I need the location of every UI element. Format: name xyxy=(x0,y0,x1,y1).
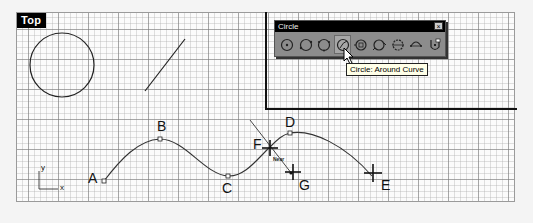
circle-tangent3-button[interactable] xyxy=(371,35,387,54)
circle-fit-icon xyxy=(391,38,405,52)
circle-deformable-button[interactable] xyxy=(408,35,424,54)
axis-y-label: y xyxy=(41,163,45,172)
point-label-a: A xyxy=(88,170,97,186)
point-label-e: E xyxy=(381,177,390,193)
point-label-d: D xyxy=(285,114,295,130)
point-label-b: B xyxy=(157,118,166,134)
osnap-near-label: Near xyxy=(273,156,284,162)
point-d-marker xyxy=(288,131,292,135)
circle-center-radius-button[interactable] xyxy=(279,35,295,54)
drawn-circle xyxy=(30,33,94,97)
circle-3point-button[interactable] xyxy=(316,35,332,54)
point-a-marker xyxy=(102,179,106,183)
point-c-marker xyxy=(226,174,230,178)
circle-options-button[interactable] xyxy=(427,35,443,54)
point-b-marker xyxy=(158,137,162,141)
circle-fit-button[interactable] xyxy=(390,35,406,54)
drawn-line xyxy=(145,39,185,91)
point-label-c: C xyxy=(222,180,232,196)
circle-center-icon xyxy=(280,38,294,52)
circle-ttr-button[interactable] xyxy=(353,35,369,54)
circle-tangent3-icon xyxy=(372,38,386,52)
point-label-f: F xyxy=(253,136,262,152)
close-button[interactable]: × xyxy=(434,22,443,30)
circle-toolbar[interactable]: Circle × xyxy=(274,20,446,57)
circle-ttr-icon xyxy=(354,38,368,52)
toolbar-title: Circle xyxy=(278,22,298,31)
circle-options-icon xyxy=(428,38,442,52)
point-label-g: G xyxy=(299,177,310,193)
world-axes-icon xyxy=(39,171,58,189)
drawing-canvas[interactable] xyxy=(0,0,533,223)
point-e-crosshair xyxy=(364,164,382,182)
tooltip: Circle: Around Curve xyxy=(346,63,428,76)
circle-diameter-button[interactable] xyxy=(297,35,313,54)
curve xyxy=(104,132,372,181)
toolbar-titlebar[interactable]: Circle × xyxy=(275,21,445,32)
circle-diameter-icon xyxy=(299,38,313,52)
axis-x-label: x xyxy=(60,183,64,192)
circle-3point-icon xyxy=(317,38,331,52)
circle-deformable-icon xyxy=(409,38,423,52)
